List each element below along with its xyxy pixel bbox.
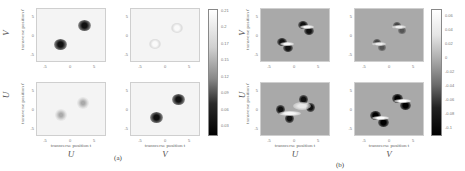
x-tick: 0: [293, 64, 295, 69]
col-label-v: V: [386, 149, 392, 159]
x-tick: 5: [93, 138, 95, 143]
col-label-v: V: [162, 149, 168, 159]
colorbar-tick: 0: [445, 55, 447, 60]
colorbar-tick: 0.09: [221, 90, 229, 95]
heatmap-a-u-u: [36, 82, 106, 136]
heatmap-b-v-u: [260, 8, 330, 62]
col-label-u: U: [292, 149, 299, 159]
x-tick: -5: [362, 64, 366, 69]
y-tick: 5: [120, 14, 128, 19]
y-tick: -5: [344, 52, 352, 57]
y-tick: 5: [26, 14, 34, 19]
x-tick: -5: [43, 64, 47, 69]
y-tick: -5: [26, 126, 34, 131]
y-tick: 5: [250, 14, 258, 19]
y-tick: 5: [26, 88, 34, 93]
x-tick: 5: [188, 138, 190, 143]
heatmap-a-v-v: [130, 8, 200, 62]
heatmap-a-v-u: [36, 8, 106, 62]
col-label-u: U: [68, 149, 75, 159]
heatmap-a-u-v: [130, 82, 200, 136]
x-tick: 0: [164, 64, 166, 69]
x-tick: -5: [267, 138, 271, 143]
x-tick: 0: [69, 64, 71, 69]
colorbar-tick: 0.15: [221, 57, 229, 62]
colorbar-tick: 0.06: [221, 107, 229, 112]
colorbar-tick: 0.02: [445, 41, 453, 46]
y-tick: 0: [250, 107, 258, 112]
row-label-u: U: [1, 92, 11, 99]
colorbar-tick: -0.08: [445, 111, 454, 116]
x-tick: 5: [317, 64, 319, 69]
panel-label-a: (a): [114, 154, 122, 162]
x-tick: 5: [412, 138, 414, 143]
colorbar-tick: 0.21: [221, 8, 229, 13]
y-tick: 0: [344, 107, 352, 112]
colorbar-tick: 0.12: [221, 74, 229, 79]
y-tick: 5: [344, 14, 352, 19]
heatmap-b-u-u: [260, 82, 330, 136]
colorbar-a: [208, 9, 218, 136]
y-tick: 5: [250, 88, 258, 93]
colorbar-tick: -0.06: [445, 97, 454, 102]
x-tick: 5: [412, 64, 414, 69]
x-tick: -5: [362, 138, 366, 143]
x-axis-label: transverse position t: [145, 143, 185, 148]
colorbar-tick: 0.17: [221, 41, 229, 46]
colorbar-tick: -0.04: [445, 83, 454, 88]
y-tick: -5: [120, 126, 128, 131]
heatmap-b-u-v: [354, 82, 424, 136]
y-tick: 0: [120, 33, 128, 38]
x-tick: 5: [93, 64, 95, 69]
y-tick: 0: [344, 33, 352, 38]
y-tick: -5: [26, 52, 34, 57]
y-tick: 5: [120, 88, 128, 93]
y-tick: -5: [250, 126, 258, 131]
y-axis-label: transverse position t': [20, 83, 25, 124]
panel-label-b: (b): [336, 161, 344, 169]
x-tick: -5: [43, 138, 47, 143]
x-tick: -5: [138, 64, 142, 69]
y-axis-label: transverse position t': [20, 9, 25, 50]
colorbar-b: [431, 9, 442, 136]
colorbar-tick: 0.03: [221, 123, 229, 128]
x-axis-label: transverse position t: [275, 143, 315, 148]
colorbar-tick: 0.04: [445, 27, 453, 32]
x-tick: 0: [388, 64, 390, 69]
y-tick: 0: [26, 33, 34, 38]
x-tick: -5: [138, 138, 142, 143]
colorbar-tick: -0.1: [445, 125, 452, 130]
heatmap-b-v-v: [354, 8, 424, 62]
y-tick: 0: [250, 33, 258, 38]
x-tick: -5: [267, 64, 271, 69]
x-axis-label: transverse position t: [369, 143, 409, 148]
row-label-v: V: [1, 30, 11, 36]
y-tick: -5: [250, 52, 258, 57]
y-tick: -5: [344, 126, 352, 131]
y-tick: 0: [26, 107, 34, 112]
x-tick: 5: [188, 64, 190, 69]
x-tick: 5: [317, 138, 319, 143]
colorbar-tick: 0.06: [445, 13, 453, 18]
colorbar-tick: 0.2: [221, 24, 227, 29]
x-axis-label: transverse position t: [51, 143, 91, 148]
y-tick: 0: [120, 107, 128, 112]
y-tick: 5: [344, 88, 352, 93]
y-tick: -5: [120, 52, 128, 57]
colorbar-tick: -0.02: [445, 69, 454, 74]
